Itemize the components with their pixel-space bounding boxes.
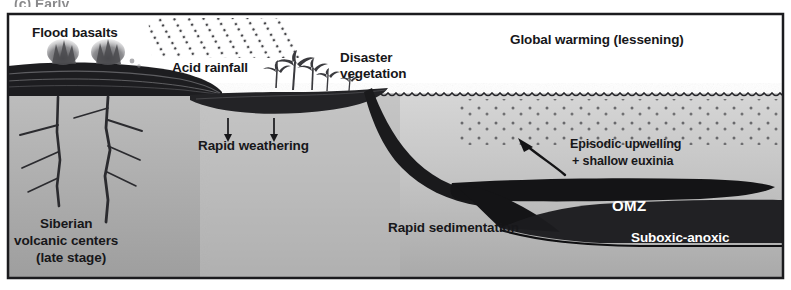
label-global-warming: Global warming (lessening) — [510, 32, 684, 47]
label-episodic-upwelling-line1: Episodic upwelling — [570, 137, 681, 151]
cross-section-svg: (c) Early — [0, 0, 791, 290]
label-episodic-upwelling-line2: + shallow euxinia — [572, 154, 675, 168]
label-disaster-vegetation-line1: Disaster — [340, 50, 393, 65]
label-flood-basalts: Flood basalts — [32, 25, 118, 40]
clipped-caption-text: (c) Early — [14, 0, 69, 12]
label-siberian-line3: (late stage) — [36, 250, 106, 265]
label-acid-rainfall: Acid rainfall — [172, 60, 248, 75]
shelf-substrate — [200, 93, 400, 279]
label-rapid-sedimentation: Rapid sedimentation — [388, 220, 519, 235]
label-disaster-vegetation-line2: vegetation — [340, 66, 407, 81]
acid-rain-icon — [148, 18, 300, 58]
figure-panel: (c) Early — [0, 0, 791, 290]
label-siberian-line1: Siberian — [40, 216, 92, 231]
label-suboxic-anoxic: Suboxic-anoxic — [631, 230, 730, 245]
label-siberian-line2: volcanic centers — [14, 233, 118, 248]
label-omz: OMZ — [612, 197, 647, 214]
label-rapid-weathering: Rapid weathering — [198, 138, 309, 153]
